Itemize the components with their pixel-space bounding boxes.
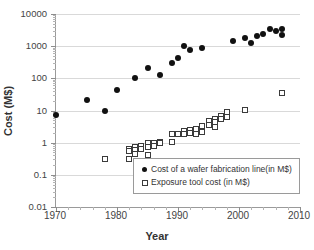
x-axis-tick-label: 1970 (44, 210, 66, 222)
data-point (84, 97, 90, 103)
data-point (169, 60, 175, 66)
y-axis-minor-tick (53, 83, 56, 84)
data-point (102, 156, 108, 162)
y-axis-minor-tick (53, 69, 56, 70)
grid-line (56, 14, 300, 15)
y-axis-minor-tick (53, 120, 56, 121)
y-axis-minor-tick (53, 51, 56, 52)
y-axis-minor-tick (53, 19, 56, 20)
y-axis-tick-label: 1 (42, 138, 47, 148)
y-axis-minor-tick (53, 17, 56, 18)
y-axis-minor-tick (53, 53, 56, 54)
data-point (279, 32, 285, 38)
y-axis-minor-tick (53, 24, 56, 25)
data-point (193, 131, 199, 137)
data-point (267, 26, 273, 32)
data-point (169, 139, 175, 145)
y-axis-minor-tick (53, 85, 56, 86)
x-axis-tick-labels: 19701980199020002010 (55, 210, 300, 224)
y-axis-tick-label: 1000 (26, 41, 47, 51)
data-point (157, 140, 163, 146)
data-point (157, 72, 163, 78)
y-axis-tick-label: 100 (31, 74, 47, 84)
y-axis-minor-tick (53, 180, 56, 181)
x-axis-tick-label: 2010 (288, 210, 310, 222)
chart-figure: Cost (M$) 0.010.1110100100010000 1970198… (0, 0, 314, 250)
data-point (187, 130, 193, 136)
chart-legend: Cost of a wafer fabrication line(in M$) … (133, 158, 300, 194)
y-axis-minor-tick (53, 59, 56, 60)
grid-line (56, 143, 300, 144)
data-point (206, 122, 212, 128)
y-axis-minor-tick (53, 91, 56, 92)
data-point (199, 129, 205, 135)
data-point (218, 116, 224, 122)
y-axis-minor-tick (53, 63, 56, 64)
y-axis-minor-tick (53, 192, 56, 193)
data-point (114, 87, 120, 93)
y-axis-minor-tick (53, 80, 56, 81)
data-point (102, 108, 108, 114)
y-axis-minor-tick (53, 146, 56, 147)
y-axis-minor-tick (53, 36, 56, 37)
y-axis-minor-tick (53, 185, 56, 186)
data-point (187, 47, 193, 53)
data-point (242, 35, 248, 41)
x-axis-tick-label: 1980 (105, 210, 127, 222)
data-point (242, 107, 248, 113)
legend-item-label: Exposure tool cost (in M$) (151, 177, 250, 188)
data-point (145, 144, 151, 150)
data-point (224, 114, 230, 120)
y-axis-tick-label: 10 (36, 106, 47, 116)
y-axis-minor-tick (53, 48, 56, 49)
y-axis-minor-tick (53, 152, 56, 153)
y-axis-minor-tick (53, 118, 56, 119)
data-point (230, 38, 236, 44)
y-axis-minor-tick (53, 178, 56, 179)
data-point (181, 43, 187, 49)
y-axis-minor-tick (53, 15, 56, 16)
legend-item: Cost of a wafer fabrication line(in M$) (138, 163, 295, 176)
y-axis-minor-tick (53, 56, 56, 57)
y-axis-minor-tick (53, 159, 56, 160)
y-axis-minor-tick (53, 49, 56, 50)
data-point (138, 146, 144, 152)
open-square-marker-icon (138, 180, 151, 186)
y-axis-minor-tick (53, 188, 56, 189)
data-point (199, 45, 205, 51)
x-axis-title: Year (0, 230, 314, 242)
y-axis-minor-tick (53, 88, 56, 89)
y-axis-tick-label: 0.1 (34, 170, 47, 180)
data-point (169, 131, 175, 137)
y-axis-minor-tick (53, 95, 56, 96)
data-point (145, 65, 151, 71)
y-axis-tick-label: 10000 (21, 9, 47, 19)
data-point (175, 131, 181, 137)
y-axis-minor-tick (53, 155, 56, 156)
y-axis-minor-tick (53, 101, 56, 102)
legend-item: Exposure tool cost (in M$) (138, 176, 295, 189)
y-axis-minor-tick (53, 21, 56, 22)
data-point (132, 151, 138, 157)
legend-item-label: Cost of a wafer fabrication line(in M$) (151, 164, 292, 175)
y-axis-minor-tick (53, 123, 56, 124)
y-axis-minor-tick (53, 144, 56, 145)
data-point (254, 33, 260, 39)
grid-line (56, 78, 300, 79)
data-point (175, 55, 181, 61)
y-axis-minor-tick (53, 165, 56, 166)
data-point (53, 112, 59, 118)
data-point (132, 75, 138, 81)
grid-line (56, 46, 300, 47)
y-axis-minor-tick (53, 182, 56, 183)
data-point (273, 28, 279, 34)
data-point (126, 148, 132, 154)
x-axis-tick-label: 2000 (227, 210, 249, 222)
data-point (126, 156, 132, 162)
filled-circle-marker-icon (138, 167, 151, 172)
y-axis-minor-tick (53, 133, 56, 134)
y-axis-minor-tick (53, 81, 56, 82)
y-axis-minor-tick (53, 150, 56, 151)
y-axis-minor-tick (53, 197, 56, 198)
y-axis-minor-tick (53, 27, 56, 28)
